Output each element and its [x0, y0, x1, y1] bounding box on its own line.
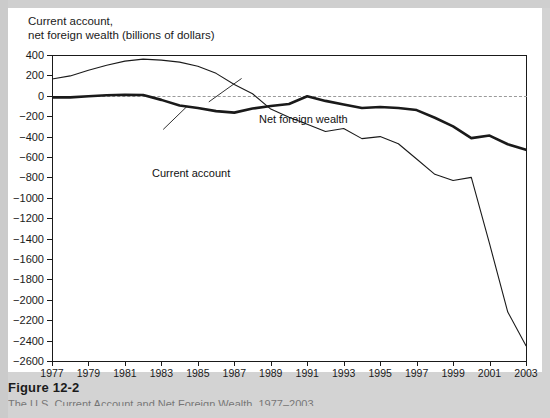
y-axis-label: 400 [26, 49, 44, 61]
x-axis-label: 1991 [296, 367, 319, 379]
x-axis-label: 1999 [441, 367, 464, 379]
y-axis-label: −2400 [13, 335, 44, 347]
x-axis-label: 1993 [332, 367, 355, 379]
y-axis-label: −2200 [13, 314, 44, 326]
annotation-current-account: Current account [152, 167, 230, 179]
series-lines [52, 55, 527, 362]
x-axis-label: 1997 [405, 367, 428, 379]
x-axis-label: 1989 [259, 367, 282, 379]
y-axis-label: −400 [19, 131, 44, 143]
page-shade-top [0, 0, 550, 8]
x-axis-label: 1985 [186, 367, 209, 379]
leader-line-net-foreign-wealth [209, 78, 242, 101]
x-axis-label: 2001 [478, 367, 501, 379]
x-axis-label: 1983 [150, 367, 173, 379]
figure-caption: Figure 12-2 The U.S. Current Account and… [8, 380, 542, 406]
page-shade-left [0, 0, 8, 418]
y-axis-label: −2000 [13, 294, 44, 306]
line-net-foreign-wealth [52, 59, 526, 346]
plot-area: 4002000−200−400−600−800−1000−1200−1400−1… [52, 55, 527, 362]
y-axis-label: −800 [19, 171, 44, 183]
figure-page: Current account, net foreign wealth (bil… [0, 0, 550, 418]
x-axis-label: 1987 [223, 367, 246, 379]
y-axis-label: −1000 [13, 192, 44, 204]
x-axis-label: 2003 [514, 367, 537, 379]
y-axis-label: −200 [19, 110, 44, 122]
x-axis-label: 1995 [368, 367, 391, 379]
annotation-net-foreign-wealth: Net foreign wealth [259, 113, 348, 125]
x-axis-label: 1979 [77, 367, 100, 379]
y-axis-label: −600 [19, 151, 44, 163]
x-axis-label: 1981 [113, 367, 136, 379]
y-axis-label: 0 [38, 90, 44, 102]
chart-title: Current account, net foreign wealth (bil… [28, 14, 215, 42]
y-axis-label: −1800 [13, 273, 44, 285]
y-axis-label: −2600 [13, 355, 44, 367]
y-axis-label: −1600 [13, 253, 44, 265]
figure-caption-title: Figure 12-2 [8, 380, 542, 395]
figure-caption-body: The U.S. Current Account and Net Foreign… [8, 398, 542, 406]
y-axis-label: 200 [26, 69, 44, 81]
x-axis-label: 1977 [40, 367, 63, 379]
figure-panel: Current account, net foreign wealth (bil… [8, 8, 542, 372]
y-axis-label: −1200 [13, 212, 44, 224]
leader-line-current-account [163, 107, 187, 130]
y-axis-label: −1400 [13, 233, 44, 245]
